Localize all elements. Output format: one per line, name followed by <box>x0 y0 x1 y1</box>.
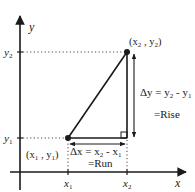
tick-label-y2: y2 <box>3 46 13 60</box>
point-2-label: (x2 , y2) <box>129 36 162 49</box>
rise-label: =Rise <box>154 108 180 120</box>
point-1 <box>65 135 71 141</box>
slope-diagram: y x y2 y1 x1 x2 (x2 , y2) (x1 , y1) Δy =… <box>0 0 195 192</box>
point-1-label: (x1 , y1) <box>26 149 59 162</box>
right-angle-marker <box>121 132 127 138</box>
point-2 <box>124 49 130 55</box>
hypotenuse <box>68 52 127 138</box>
delta-y-formula: Δy = y2 - y1 <box>140 86 192 100</box>
y-axis-label: y <box>28 20 35 34</box>
tick-label-x1: x1 <box>63 177 73 191</box>
x-axis-label: x <box>174 176 181 190</box>
tick-label-x2: x2 <box>122 177 132 191</box>
run-label: =Run <box>88 157 113 169</box>
tick-label-y1: y1 <box>3 132 13 146</box>
